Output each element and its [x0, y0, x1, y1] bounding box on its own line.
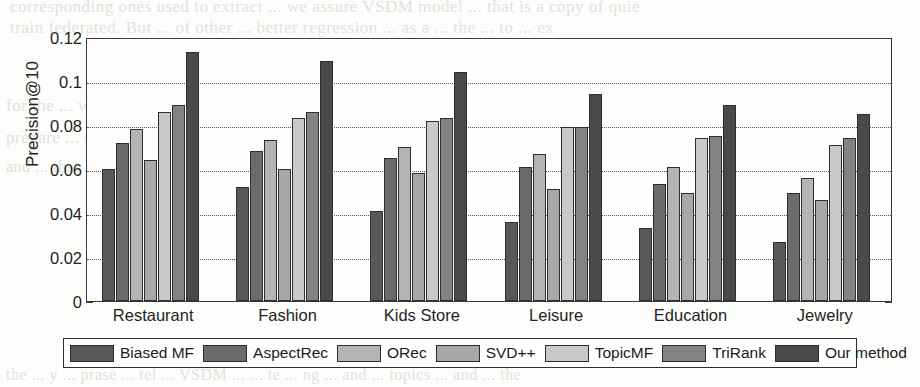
x-category-label: Kids Store [384, 306, 460, 325]
bar[interactable] [843, 138, 856, 301]
bar[interactable] [589, 94, 602, 301]
bar-group-restaurant [102, 39, 199, 301]
bar[interactable] [695, 138, 708, 301]
gridline [87, 127, 891, 128]
y-tick-label: 0.1 [0, 73, 82, 92]
gridline [87, 215, 891, 216]
bar[interactable] [116, 143, 129, 301]
bar[interactable] [829, 145, 842, 301]
bar[interactable] [412, 173, 425, 301]
bar[interactable] [639, 228, 652, 301]
bar[interactable] [144, 160, 157, 301]
x-category-label: Education [654, 306, 727, 325]
bar[interactable] [787, 193, 800, 301]
legend-swatch [775, 345, 819, 362]
bar[interactable] [519, 167, 532, 301]
y-tick-label: 0 [0, 293, 82, 312]
bar[interactable] [292, 118, 305, 301]
bar-group-kids-store [370, 39, 467, 301]
plot-area [86, 38, 892, 302]
bar-group-leisure [505, 39, 602, 301]
legend-label: TopicMF [595, 344, 654, 362]
bar[interactable] [723, 105, 736, 301]
bar-chart: Precision@10 00.020.040.060.080.10.12 Re… [0, 0, 920, 387]
y-tick-label: 0.08 [0, 117, 82, 136]
bar[interactable] [102, 169, 115, 301]
legend-swatch [70, 345, 114, 362]
legend-label: SVD++ [486, 344, 536, 362]
legend-item-svd[interactable]: SVD++ [436, 344, 536, 362]
gridline [87, 171, 891, 172]
y-tick-mark [86, 302, 93, 303]
bar[interactable] [857, 114, 870, 301]
bar[interactable] [773, 242, 786, 301]
y-tick-label: 0.04 [0, 205, 82, 224]
bar[interactable] [454, 72, 467, 301]
bar[interactable] [172, 105, 185, 301]
bar[interactable] [575, 127, 588, 301]
legend-swatch [203, 345, 247, 362]
y-tick-label: 0.02 [0, 249, 82, 268]
legend-label: Biased MF [120, 344, 194, 362]
bar-group-jewelry [773, 39, 870, 301]
bar[interactable] [186, 52, 199, 301]
bar[interactable] [236, 187, 249, 301]
bar[interactable] [667, 167, 680, 301]
legend-swatch [436, 345, 480, 362]
bar[interactable] [709, 136, 722, 301]
bar[interactable] [306, 112, 319, 301]
legend: Biased MFAspectRecORecSVD++TopicMFTriRan… [63, 338, 857, 368]
bar[interactable] [801, 178, 814, 301]
legend-item-our-method[interactable]: Our method [775, 344, 907, 362]
bar[interactable] [370, 211, 383, 301]
gridline [87, 83, 891, 84]
bar-group-fashion [236, 39, 333, 301]
gridline [87, 259, 891, 260]
legend-item-orec[interactable]: ORec [337, 344, 427, 362]
legend-item-biased-mf[interactable]: Biased MF [70, 344, 194, 362]
legend-swatch [662, 345, 706, 362]
bar[interactable] [505, 222, 518, 301]
x-category-label: Restaurant [113, 306, 194, 325]
legend-label: Our method [825, 344, 907, 362]
legend-label: TriRank [712, 344, 766, 362]
bar-group-education [639, 39, 736, 301]
bar[interactable] [384, 158, 397, 301]
legend-item-trirank[interactable]: TriRank [662, 344, 766, 362]
x-category-label: Leisure [529, 306, 583, 325]
legend-label: ORec [387, 344, 427, 362]
bar[interactable] [547, 189, 560, 301]
y-tick-label: 0.06 [0, 161, 82, 180]
bar[interactable] [264, 140, 277, 301]
x-category-label: Fashion [258, 306, 317, 325]
bar[interactable] [440, 118, 453, 301]
legend-item-topicmf[interactable]: TopicMF [545, 344, 654, 362]
bar[interactable] [398, 147, 411, 301]
bar[interactable] [533, 154, 546, 301]
bar[interactable] [320, 61, 333, 301]
bar[interactable] [653, 184, 666, 301]
legend-swatch [337, 345, 381, 362]
bar[interactable] [158, 112, 171, 301]
legend-swatch [545, 345, 589, 362]
bar[interactable] [815, 200, 828, 301]
y-tick-mark [885, 302, 892, 303]
bar[interactable] [561, 127, 574, 301]
bar[interactable] [250, 151, 263, 301]
x-category-label: Jewelry [797, 306, 853, 325]
legend-item-aspectrec[interactable]: AspectRec [203, 344, 328, 362]
bar[interactable] [681, 193, 694, 301]
legend-label: AspectRec [253, 344, 328, 362]
y-tick-label: 0.12 [0, 29, 82, 48]
bar[interactable] [426, 121, 439, 301]
bar[interactable] [130, 129, 143, 301]
bar[interactable] [278, 169, 291, 301]
